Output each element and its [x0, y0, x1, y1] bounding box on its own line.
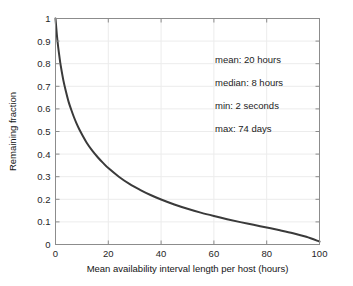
y-tick-label: 0.4 — [37, 149, 50, 160]
annotation-line-3: max: 74 days — [215, 123, 272, 134]
annotation-line-0: mean: 20 hours — [215, 54, 281, 65]
x-tick-label: 40 — [156, 248, 167, 259]
y-tick-label: 0.6 — [37, 103, 50, 114]
x-axis-title: Mean availability interval length per ho… — [87, 263, 289, 274]
x-tick-label: 0 — [53, 248, 58, 259]
annotation-line-1: median: 8 hours — [215, 77, 283, 88]
y-tick-label: 0.7 — [37, 81, 50, 92]
y-tick-label: 0.3 — [37, 171, 50, 182]
x-tick-label: 20 — [103, 248, 114, 259]
x-tick-label: 60 — [209, 248, 220, 259]
chart-figure: 020406080100 00.10.20.30.40.50.60.70.80.… — [0, 0, 353, 286]
chart-svg: 020406080100 00.10.20.30.40.50.60.70.80.… — [0, 0, 353, 286]
x-tick-label: 100 — [312, 248, 328, 259]
y-tick-label: 0.5 — [37, 126, 50, 137]
y-tick-label: 0 — [45, 239, 50, 250]
y-tick-label: 0.9 — [37, 36, 50, 47]
annotation-line-2: min: 2 seconds — [215, 100, 279, 111]
x-tick-label: 80 — [261, 248, 272, 259]
figure-background — [0, 0, 353, 286]
y-tick-label: 1 — [45, 13, 50, 24]
y-axis-title: Remaining fraction — [7, 92, 18, 171]
y-tick-label: 0.2 — [37, 194, 50, 205]
y-tick-label: 0.1 — [37, 216, 50, 227]
y-tick-label: 0.8 — [37, 58, 50, 69]
